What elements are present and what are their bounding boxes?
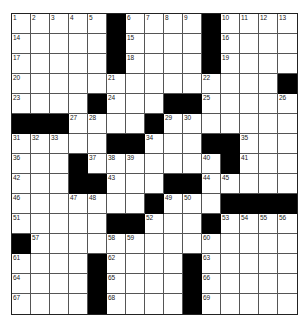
grid-cell[interactable] bbox=[50, 174, 69, 194]
grid-cell[interactable]: 18 bbox=[126, 54, 145, 74]
grid-cell[interactable]: 48 bbox=[88, 194, 107, 214]
grid-cell[interactable] bbox=[31, 214, 50, 234]
grid-cell[interactable] bbox=[126, 274, 145, 294]
grid-cell[interactable]: 14 bbox=[12, 34, 31, 54]
grid-cell[interactable]: 42 bbox=[12, 174, 31, 194]
grid-cell[interactable]: 2 bbox=[31, 14, 50, 34]
grid-cell[interactable] bbox=[31, 274, 50, 294]
grid-cell[interactable] bbox=[50, 294, 69, 314]
grid-cell[interactable] bbox=[88, 234, 107, 254]
grid-cell[interactable] bbox=[164, 214, 183, 234]
grid-cell[interactable]: 28 bbox=[88, 114, 107, 134]
grid-cell[interactable] bbox=[164, 54, 183, 74]
grid-cell[interactable] bbox=[259, 294, 278, 314]
grid-cell[interactable]: 37 bbox=[88, 154, 107, 174]
grid-cell[interactable] bbox=[259, 54, 278, 74]
grid-cell[interactable] bbox=[50, 154, 69, 174]
grid-cell[interactable]: 5 bbox=[88, 14, 107, 34]
grid-cell[interactable]: 1 bbox=[12, 14, 31, 34]
grid-cell[interactable] bbox=[145, 94, 164, 114]
grid-cell[interactable]: 43 bbox=[107, 174, 126, 194]
grid-cell[interactable] bbox=[183, 214, 202, 234]
grid-cell[interactable]: 7 bbox=[145, 14, 164, 34]
grid-cell[interactable] bbox=[278, 174, 297, 194]
grid-cell[interactable] bbox=[240, 234, 259, 254]
grid-cell[interactable] bbox=[145, 294, 164, 314]
grid-cell[interactable]: 41 bbox=[240, 154, 259, 174]
grid-cell[interactable] bbox=[240, 114, 259, 134]
grid-cell[interactable]: 45 bbox=[221, 174, 240, 194]
grid-cell[interactable] bbox=[221, 294, 240, 314]
grid-cell[interactable] bbox=[240, 294, 259, 314]
grid-cell[interactable] bbox=[183, 74, 202, 94]
grid-cell[interactable] bbox=[88, 214, 107, 234]
grid-cell[interactable] bbox=[50, 214, 69, 234]
grid-cell[interactable] bbox=[50, 274, 69, 294]
grid-cell[interactable] bbox=[278, 254, 297, 274]
grid-cell[interactable]: 26 bbox=[278, 94, 297, 114]
grid-cell[interactable] bbox=[69, 134, 88, 154]
grid-cell[interactable]: 31 bbox=[12, 134, 31, 154]
grid-cell[interactable]: 62 bbox=[107, 254, 126, 274]
grid-cell[interactable] bbox=[240, 34, 259, 54]
grid-cell[interactable]: 34 bbox=[145, 134, 164, 154]
grid-cell[interactable] bbox=[164, 274, 183, 294]
grid-cell[interactable] bbox=[50, 254, 69, 274]
grid-cell[interactable] bbox=[278, 34, 297, 54]
grid-cell[interactable] bbox=[278, 274, 297, 294]
grid-cell[interactable] bbox=[240, 94, 259, 114]
grid-cell[interactable] bbox=[164, 254, 183, 274]
grid-cell[interactable]: 52 bbox=[145, 214, 164, 234]
grid-cell[interactable] bbox=[145, 74, 164, 94]
grid-cell[interactable] bbox=[126, 114, 145, 134]
grid-cell[interactable]: 12 bbox=[259, 14, 278, 34]
grid-cell[interactable] bbox=[259, 234, 278, 254]
grid-cell[interactable]: 47 bbox=[69, 194, 88, 214]
grid-cell[interactable] bbox=[50, 54, 69, 74]
grid-cell[interactable] bbox=[145, 174, 164, 194]
grid-cell[interactable] bbox=[259, 154, 278, 174]
grid-cell[interactable]: 20 bbox=[12, 74, 31, 94]
grid-cell[interactable]: 32 bbox=[31, 134, 50, 154]
grid-cell[interactable] bbox=[50, 234, 69, 254]
grid-cell[interactable] bbox=[278, 134, 297, 154]
grid-cell[interactable] bbox=[126, 294, 145, 314]
grid-cell[interactable] bbox=[50, 34, 69, 54]
grid-cell[interactable]: 55 bbox=[259, 214, 278, 234]
grid-cell[interactable] bbox=[221, 274, 240, 294]
grid-cell[interactable] bbox=[69, 94, 88, 114]
grid-cell[interactable] bbox=[259, 274, 278, 294]
grid-cell[interactable] bbox=[259, 254, 278, 274]
grid-cell[interactable]: 29 bbox=[164, 114, 183, 134]
grid-cell[interactable]: 36 bbox=[12, 154, 31, 174]
grid-cell[interactable] bbox=[50, 74, 69, 94]
grid-cell[interactable] bbox=[202, 194, 221, 214]
grid-cell[interactable] bbox=[183, 134, 202, 154]
grid-cell[interactable]: 53 bbox=[221, 214, 240, 234]
grid-cell[interactable]: 61 bbox=[12, 254, 31, 274]
grid-cell[interactable] bbox=[259, 34, 278, 54]
grid-cell[interactable] bbox=[240, 174, 259, 194]
grid-cell[interactable]: 11 bbox=[240, 14, 259, 34]
grid-cell[interactable] bbox=[164, 294, 183, 314]
grid-cell[interactable] bbox=[50, 94, 69, 114]
grid-cell[interactable] bbox=[88, 74, 107, 94]
grid-cell[interactable] bbox=[183, 54, 202, 74]
grid-cell[interactable]: 23 bbox=[12, 94, 31, 114]
grid-cell[interactable]: 57 bbox=[31, 234, 50, 254]
grid-cell[interactable] bbox=[164, 234, 183, 254]
grid-cell[interactable] bbox=[145, 254, 164, 274]
grid-cell[interactable] bbox=[31, 194, 50, 214]
grid-cell[interactable]: 56 bbox=[278, 214, 297, 234]
grid-cell[interactable]: 64 bbox=[12, 274, 31, 294]
grid-cell[interactable] bbox=[31, 174, 50, 194]
grid-cell[interactable] bbox=[145, 154, 164, 174]
grid-cell[interactable] bbox=[278, 234, 297, 254]
grid-cell[interactable] bbox=[69, 54, 88, 74]
grid-cell[interactable] bbox=[183, 34, 202, 54]
grid-cell[interactable] bbox=[202, 114, 221, 134]
grid-cell[interactable] bbox=[164, 74, 183, 94]
grid-cell[interactable]: 58 bbox=[107, 234, 126, 254]
grid-cell[interactable]: 40 bbox=[202, 154, 221, 174]
grid-cell[interactable] bbox=[88, 54, 107, 74]
